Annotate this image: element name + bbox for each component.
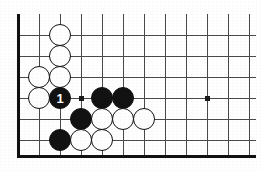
star-point-left-marker <box>79 96 84 101</box>
goban-grid <box>0 0 261 171</box>
go-board-diagram: 1 <box>0 0 261 171</box>
star-point-right-marker <box>205 96 210 101</box>
